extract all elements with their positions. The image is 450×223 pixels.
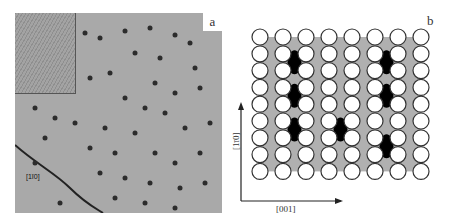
axis-label-horizontal: [001]: [276, 204, 296, 214]
lattice-model: [0, 0, 450, 223]
axis-label-vertical: [1ī0]: [231, 133, 241, 151]
panel-label-b: b: [427, 13, 434, 29]
